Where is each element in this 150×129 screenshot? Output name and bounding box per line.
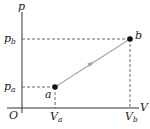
pv-diagram: p V O pb pa Va Vb a b [0, 0, 150, 129]
point-b [127, 36, 133, 42]
point-a-label: a [45, 88, 52, 101]
y-axis-label: p [18, 0, 25, 13]
x-axis-label: V [140, 101, 149, 114]
pb-label: pb [4, 32, 16, 46]
point-a [52, 84, 58, 90]
point-b-label: b [135, 29, 142, 42]
va-label: Va [50, 110, 62, 124]
vb-label: Vb [125, 110, 138, 124]
origin-label: O [9, 109, 18, 122]
pa-label: pa [4, 80, 16, 94]
